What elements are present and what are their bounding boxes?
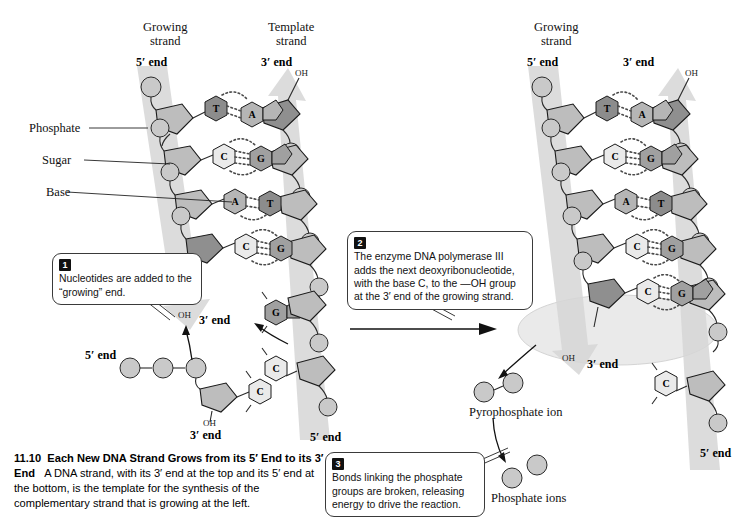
growing-3prime-label-right: 3′ end (587, 357, 618, 372)
figure-number: 11.10 (14, 452, 41, 464)
svg-text:C: C (662, 378, 669, 389)
free-nucleotide-3prime-label: 3′ end (190, 428, 221, 443)
phosphate-circle (172, 207, 190, 225)
svg-text:G: G (277, 243, 285, 254)
template-strand-label-left: Template strand (268, 20, 314, 48)
svg-text:A: A (231, 196, 239, 207)
phosphate-ions (502, 455, 547, 488)
callout-2-number: 2 (354, 237, 366, 249)
phosphate-circle (709, 414, 727, 432)
phosphate-circle (141, 77, 161, 97)
svg-text:C: C (220, 151, 227, 162)
phosphate-circle (532, 77, 552, 97)
svg-text:G: G (668, 243, 676, 254)
callout-1-number: 1 (59, 259, 71, 271)
svg-text:G: G (257, 153, 265, 164)
phosphate-circle (563, 207, 581, 225)
template-oh-label-right: OH (685, 68, 698, 78)
template-5prime-label-left: 5′ end (310, 430, 341, 445)
phosphate-circle (574, 252, 592, 270)
svg-text:G: G (647, 153, 655, 164)
template-5prime-label-right: 5′ end (700, 446, 731, 461)
pyrophosphate-ion-label: Pyrophosphate ion (469, 405, 562, 419)
base-pair: A T (224, 189, 281, 220)
callout-3-text: Bonds linking the phosphate groups are b… (332, 471, 470, 511)
sugar-label: Sugar (42, 153, 71, 167)
svg-text:C: C (644, 286, 651, 297)
phosphate-circle (161, 163, 179, 181)
svg-text:C: C (242, 241, 249, 252)
growing-oh-label-right: OH (562, 353, 575, 363)
base-label: Base (46, 185, 70, 199)
base-pair: C G (626, 230, 683, 265)
svg-text:G: G (678, 288, 686, 299)
phosphate-circle (186, 358, 206, 378)
transition-arrow (350, 323, 497, 335)
svg-text:A: A (638, 109, 646, 120)
callout-3: 3Bonds linking the phosphate groups are … (325, 452, 485, 517)
growing-5prime-label-right: 5′ end (527, 55, 558, 70)
template-oh-label-left: OH (295, 68, 308, 78)
svg-text:C: C (256, 386, 263, 397)
svg-text:G: G (272, 307, 280, 318)
callout-1: 1Nucleotides are added to the “growing” … (52, 253, 202, 305)
svg-text:T: T (213, 103, 220, 114)
base-pair: C G (235, 230, 292, 265)
svg-text:T: T (604, 103, 611, 114)
growing-oh-label-left: OH (178, 310, 191, 320)
phosphate-circle (153, 358, 173, 378)
growing-5prime-label-left: 5′ end (136, 55, 167, 70)
phosphate-circle (310, 334, 328, 352)
svg-text:C: C (633, 241, 640, 252)
growing-strand-label-left: Growing strand (143, 20, 187, 48)
phosphate-circle (151, 119, 169, 137)
free-nucleotide-left: C (120, 358, 271, 422)
free-nucleotide-5prime-label: 5′ end (85, 348, 116, 363)
callout-2: 2The enzyme DNA polymerase III adds the … (347, 231, 533, 310)
phosphate-circle (552, 163, 570, 181)
callout-1-text: Nucleotides are added to the “growing” e… (59, 272, 194, 299)
svg-text:T: T (658, 198, 665, 209)
incoming-arrow-left (254, 323, 288, 344)
template-3prime-label-right: 3′ end (623, 55, 654, 70)
svg-text:T: T (267, 198, 274, 209)
svg-text:C: C (272, 363, 279, 374)
base-pair: A T (615, 189, 672, 220)
svg-text:C: C (611, 151, 618, 162)
phosphate-circle (120, 358, 140, 378)
growing-3prime-label-left: 3′ end (199, 313, 230, 328)
svg-text:A: A (248, 109, 256, 120)
phosphate-label: Phosphate (29, 121, 80, 135)
template-next-base-right: C (652, 363, 677, 404)
phosphate-ions-label: Phosphate ions (491, 491, 566, 505)
growing-strand-label-right: Growing strand (534, 20, 578, 48)
callout-3-number: 3 (332, 458, 344, 470)
template-3prime-label-left: 3′ end (261, 55, 292, 70)
pyrophosphate-ion (474, 373, 523, 402)
phosphate-circle (542, 119, 560, 137)
callout-2-text: The enzyme DNA polymerase III adds the n… (354, 250, 518, 303)
phosphate-circle (709, 323, 727, 341)
figure-body: A DNA strand, with its 3′ end at the top… (14, 467, 314, 509)
addition-arrow-left (182, 325, 192, 360)
svg-text:A: A (622, 196, 630, 207)
free-nucleotide-oh-label: OH (203, 418, 216, 428)
phosphate-circle (319, 398, 337, 416)
figure-caption: 11.10 Each New DNA Strand Grows from its… (14, 451, 332, 511)
